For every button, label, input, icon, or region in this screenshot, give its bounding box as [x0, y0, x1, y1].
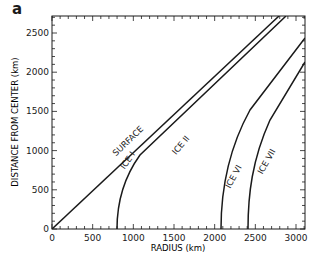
y-axis-label: DISTANCE FROM CENTER (km) [10, 57, 20, 186]
x-tick-label: 1500 [163, 233, 186, 243]
curves [52, 16, 305, 229]
x-axis-label: RADIUS (km) [151, 243, 206, 253]
y-tick-label: 2000 [26, 67, 49, 77]
curve-ice-vii [248, 62, 305, 229]
x-tick-label: 3000 [285, 233, 308, 243]
label-ice-ii: ICE II [170, 134, 192, 157]
x-tick-label: 2000 [203, 233, 226, 243]
y-tick-label: 0 [43, 224, 49, 234]
y-tick-label: 1500 [26, 106, 49, 116]
axis-ticks [52, 16, 305, 229]
y-tick-label: 1000 [26, 146, 49, 156]
y-tick-label: 2500 [26, 28, 49, 38]
y-tick-label: 500 [32, 185, 49, 195]
curve-surface [52, 16, 279, 229]
chart: 050010001500200025003000 050010001500200… [0, 0, 313, 262]
plot-frame [52, 16, 305, 229]
x-tick-labels: 050010001500200025003000 [49, 233, 308, 243]
x-tick-label: 500 [84, 233, 101, 243]
x-tick-label: 2500 [244, 233, 267, 243]
y-tick-labels: 05001000150020002500 [26, 28, 49, 234]
curve-ice-i [117, 16, 286, 229]
x-tick-label: 0 [49, 233, 55, 243]
x-tick-label: 1000 [122, 233, 145, 243]
